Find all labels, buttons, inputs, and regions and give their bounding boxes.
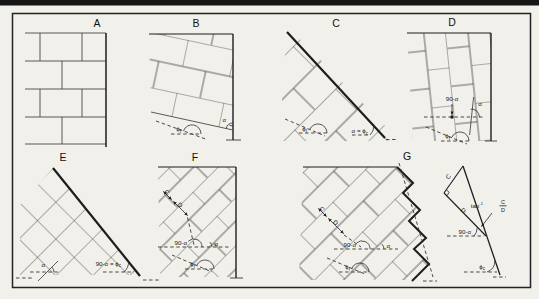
panel-d-label: D xyxy=(448,16,456,28)
brick-pattern-f xyxy=(156,165,238,279)
side-c-label: C xyxy=(444,172,453,180)
panel-g-label: G xyxy=(403,150,411,162)
step-triangle xyxy=(444,166,507,277)
panel-e-label: E xyxy=(59,151,66,163)
panel-e: E α 90-α = ϕc xyxy=(16,151,159,281)
brick-pattern-d xyxy=(405,31,493,143)
panel-b: B ϕf α xyxy=(145,17,241,140)
angle-alpha-label: α xyxy=(478,100,482,107)
fraction-d-label: D xyxy=(501,207,505,213)
angle-alpha-label: α xyxy=(41,261,45,268)
tan-inverse-label: tan-1 xyxy=(471,201,484,209)
angle-alpha-label: α xyxy=(387,242,391,249)
fraction-c-label: C xyxy=(501,199,505,205)
panel-b-label: B xyxy=(192,17,199,29)
angle-alpha-label: α xyxy=(215,240,219,247)
figure-svg: A B ϕf α C xyxy=(0,0,539,299)
angle-90-minus-alpha-label: 90-α xyxy=(446,95,459,102)
panel-a: A xyxy=(25,17,106,147)
angle-phi-f-label: ϕf xyxy=(176,125,181,134)
panel-d: D 90-α α ϕf xyxy=(405,16,497,144)
panel-c: C ϕf α = ϕc xyxy=(280,17,402,143)
figure-page: A B ϕf α C xyxy=(0,0,539,299)
brick-pattern-a xyxy=(25,33,106,144)
panel-g: G C D 90-α α ϕf xyxy=(297,150,507,283)
panel-c-label: C xyxy=(332,17,340,29)
panel-f-label: F xyxy=(192,151,198,163)
angle-phi-c-label: ϕc xyxy=(479,263,485,272)
panel-a-label: A xyxy=(93,17,100,29)
angle-90-minus-alpha-label: 90-α xyxy=(343,241,356,248)
panel-f: F C D 90-α α ϕf xyxy=(156,151,243,279)
joint-lattice-e xyxy=(18,166,143,278)
angle-90-minus-alpha-label: 90-α xyxy=(458,228,471,235)
angle-90-minus-alpha-label: 90-α xyxy=(174,239,187,246)
angle-alpha-label: α xyxy=(222,116,226,123)
page-top-rule xyxy=(0,0,539,6)
